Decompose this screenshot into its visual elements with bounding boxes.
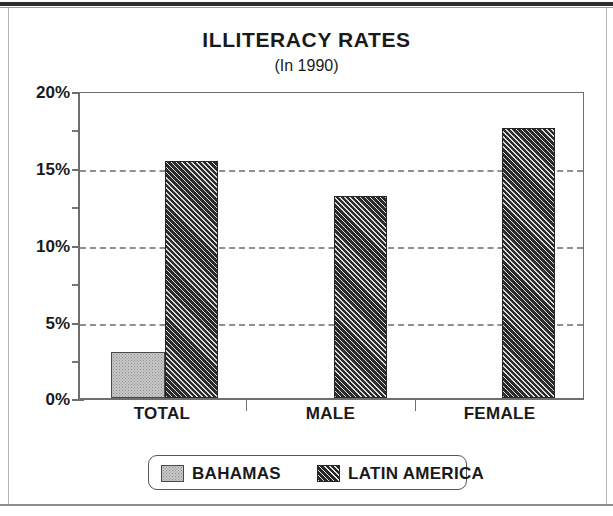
legend-item-latin-america: LATIN AMERICA [317, 456, 484, 491]
y-axis-label-15: 15% [8, 160, 70, 180]
y-axis-label-5: 5% [8, 314, 70, 334]
x-axis-label-male: MALE [246, 404, 415, 424]
bar-latin-america-total [165, 161, 218, 398]
y-axis-label-0: 0% [8, 390, 70, 410]
bar-latin-america-male [334, 196, 387, 398]
chart-title: ILLITERACY RATES [0, 28, 613, 52]
chart-subtitle: (In 1990) [0, 57, 613, 75]
page-border-bottom [0, 504, 613, 506]
legend-label-latin-america: LATIN AMERICA [348, 464, 484, 484]
plot-area [78, 92, 584, 400]
legend-label-bahamas: BAHAMAS [192, 464, 281, 484]
y-axis-label-10: 10% [8, 237, 70, 257]
bar-latin-america-female [502, 128, 555, 398]
legend-swatch-bahamas-icon [161, 465, 184, 482]
bar-bahamas-total [111, 352, 165, 398]
page-border-top [0, 2, 613, 6]
x-axis-label-total: TOTAL [78, 404, 246, 424]
chart-legend: BAHAMAS LATIN AMERICA [148, 455, 467, 490]
y-axis-label-20: 20% [8, 83, 70, 103]
legend-item-bahamas: BAHAMAS [161, 456, 281, 491]
page-border-top-hairline [0, 7, 613, 8]
chart-page: ILLITERACY RATES (In 1990) 20% 15% 10% 5… [0, 0, 613, 516]
page-border-right [606, 8, 607, 506]
legend-swatch-latin-america-icon [317, 465, 340, 482]
x-axis-label-female: FEMALE [415, 404, 584, 424]
